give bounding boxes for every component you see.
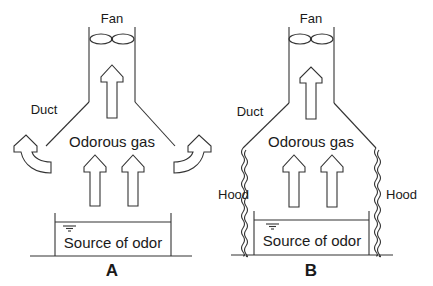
source-label: Source of odor [64,234,162,251]
escape-arrow-right-icon [174,135,211,173]
hood-curtain-right [375,148,381,257]
fan-icon [289,34,333,44]
hood-label-left: Hood [218,187,249,202]
up-arrow-icon [300,67,322,119]
hood-curtain-left [242,148,248,257]
duct-label: Duct [237,104,264,119]
fan-icon [90,34,134,44]
up-arrow-icon [283,155,305,207]
panel-a: Fan Duct Odorous gas [14,11,211,280]
panel-b: Fan Duct Odorous gas Hood Hood [218,11,417,280]
odorous-gas-label: Odorous gas [69,133,155,150]
odor-capture-diagram: Fan Duct Odorous gas [0,0,433,286]
hood-label-right: Hood [386,187,417,202]
panel-label-b: B [305,261,317,280]
source-label: Source of odor [263,232,361,249]
escape-arrow-left-icon [14,135,51,173]
up-arrow-icon [101,65,123,118]
up-arrow-icon [122,155,144,206]
fan-label: Fan [300,11,322,26]
up-arrow-icon [321,155,343,207]
odorous-gas-label: Odorous gas [268,133,354,150]
duct-label: Duct [31,102,58,117]
panel-label-a: A [106,261,118,280]
fan-label: Fan [101,11,123,26]
up-arrow-icon [84,155,106,206]
